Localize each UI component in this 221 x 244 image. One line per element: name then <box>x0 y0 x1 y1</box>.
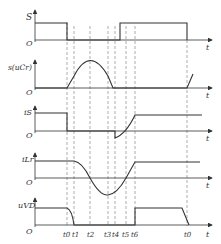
t-axis-label: t <box>206 181 210 190</box>
origin-label: O <box>26 178 33 187</box>
panel-switch-signal: S O t <box>26 10 212 52</box>
t0-label: t0 <box>63 231 71 239</box>
t1-label: t1 <box>72 231 79 239</box>
t5-label: t5 <box>122 231 130 239</box>
origin-label: O <box>26 39 33 48</box>
panel-capacitor-voltage: s(uCr) O t <box>8 60 212 100</box>
time-labels: t0 t1 t2 t3 t4 t5 t6 t0 <box>63 231 192 239</box>
label-S: S <box>26 12 32 22</box>
t6-label: t6 <box>131 231 139 239</box>
panel-switch-current: iS O t <box>24 106 212 143</box>
t-axis-label: t <box>206 134 210 143</box>
label-uVD: uVD <box>18 201 36 210</box>
t4-label: t4 <box>112 231 119 239</box>
label-iS: iS <box>24 108 33 117</box>
t0-repeat-label: t0 <box>184 231 192 239</box>
t3-label: t3 <box>104 231 112 239</box>
t-axis-label: t <box>206 91 210 100</box>
panel-inductor-current: iLr O t <box>22 153 212 195</box>
t-axis-label: t <box>206 43 210 52</box>
label-uCr: s(uCr) <box>8 63 32 72</box>
timing-diagram: S O t s(uCr) O t iS O t iLr O t uVD O t <box>0 0 221 244</box>
t2-label: t2 <box>87 231 95 239</box>
label-iLr: iLr <box>22 155 35 164</box>
origin-label: O <box>26 227 33 236</box>
t-axis-label: t <box>206 230 210 239</box>
origin-label: O <box>26 88 33 97</box>
time-marker-lines <box>67 22 187 226</box>
origin-label: O <box>26 131 33 140</box>
